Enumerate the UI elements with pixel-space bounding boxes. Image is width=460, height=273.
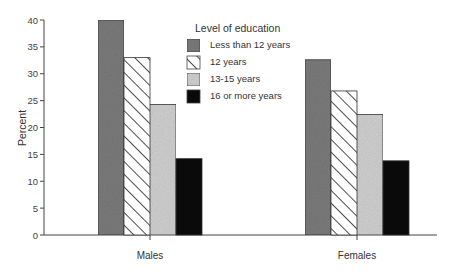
y-tick-label: 20 [27, 122, 38, 133]
legend-swatch [187, 90, 200, 103]
legend-label: 12 years [210, 56, 246, 67]
y-tick-label: 40 [27, 15, 38, 26]
bar [176, 159, 202, 235]
legend-label: Less than 12 years [210, 39, 290, 50]
x-tick-label: Females [338, 250, 376, 261]
y-tick-label: 5 [33, 203, 38, 214]
x-tick-label: Males [137, 250, 164, 261]
bar [357, 115, 383, 235]
legend [187, 39, 200, 103]
bar [383, 161, 409, 235]
y-tick-label: 10 [27, 176, 38, 187]
bar [150, 104, 176, 235]
y-axis-label: Percent [16, 110, 28, 146]
y-tick-label: 0 [33, 230, 38, 241]
y-tick-label: 35 [27, 41, 38, 52]
bars: MalesFemales [98, 20, 409, 261]
y-tick-label: 30 [27, 68, 38, 79]
legend-swatch [187, 73, 200, 86]
bar [305, 60, 331, 235]
legend-label: 16 or more years [210, 90, 282, 101]
legend-label: 13-15 years [210, 73, 260, 84]
bar [331, 91, 357, 235]
legend-title: Level of education [195, 22, 280, 34]
bar [98, 20, 124, 235]
y-tick-label: 15 [27, 149, 38, 160]
bar [124, 58, 150, 235]
legend-swatch [187, 39, 200, 52]
y-tick-label: 25 [27, 95, 38, 106]
legend-swatch [187, 56, 200, 69]
